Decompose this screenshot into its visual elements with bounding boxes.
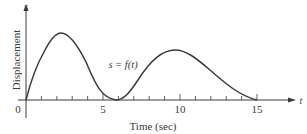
x-axis-title: Time (sec) bbox=[130, 120, 177, 133]
x-axis-ticks bbox=[41, 94, 257, 100]
x-axis-variable: t bbox=[300, 95, 303, 106]
x-axis-arrow-icon bbox=[288, 98, 296, 103]
x-tick-label-10: 10 bbox=[175, 103, 187, 115]
x-tick-label-15: 15 bbox=[252, 103, 264, 115]
x-tick-label-5: 5 bbox=[100, 103, 106, 115]
displacement-chart: 0 5 10 15 s t Displacement Time (sec) s … bbox=[0, 0, 307, 134]
y-axis-variable: s bbox=[24, 1, 28, 12]
x-tick-label-0: 0 bbox=[15, 103, 21, 115]
y-axis-title: Displacement bbox=[10, 30, 22, 90]
curve-label: s = f(t) bbox=[108, 59, 138, 71]
displacement-curve bbox=[26, 33, 257, 100]
